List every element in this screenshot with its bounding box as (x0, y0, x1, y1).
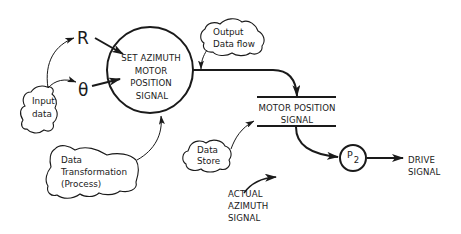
annotation-input-data: Input data (21, 38, 76, 133)
pointer-to-theta (48, 80, 76, 88)
annotation-output-data-flow: Output Data flow (201, 19, 264, 69)
pointer-to-output-flow (201, 50, 207, 69)
actual-signal-line-2: AZIMUTH (228, 201, 268, 211)
output-data-flow-line-1: Output (213, 27, 244, 37)
annotation-data-transformation: Data Transformation (Process) (46, 116, 161, 198)
process-p2: P2 (340, 145, 366, 171)
output-data-flow-line-2: Data flow (213, 39, 255, 49)
drive-signal-output: DRIVE SIGNAL (408, 155, 440, 177)
theta-flow-arrow (92, 79, 120, 86)
output-flow-line (193, 70, 297, 96)
process-label-line-3: POSITION (130, 78, 172, 88)
annotation-data-store: Data Store (183, 121, 254, 172)
data-transformation-line-3: (Process) (61, 179, 101, 189)
p2-label: P2 (347, 149, 359, 165)
process-label-line-2: MOTOR (135, 66, 168, 76)
pointer-to-data-store (231, 121, 254, 149)
pointer-to-process (137, 116, 161, 160)
store-label-line-2: SIGNAL (281, 115, 313, 125)
data-store-motor-position: MOTOR POSITION SIGNAL (257, 97, 336, 126)
data-flow-diagram: SET AZIMUTH MOTOR POSITION SIGNAL R θ In… (0, 0, 461, 234)
store-to-p2-flow (296, 127, 338, 157)
store-label-line-1: MOTOR POSITION (258, 103, 335, 113)
actual-signal-line-3: SIGNAL (228, 213, 260, 223)
drive-signal-line-2: SIGNAL (408, 167, 440, 177)
input-flows: R θ (77, 28, 123, 100)
process-label-line-1: SET AZIMUTH (121, 53, 181, 63)
drive-signal-line-1: DRIVE (408, 155, 435, 165)
data-store-line-1: Data (197, 145, 218, 155)
data-transformation-line-1: Data (61, 155, 82, 165)
input-data-line-1: Input (32, 96, 55, 106)
theta-label: θ (78, 80, 88, 100)
input-data-line-2: data (32, 109, 52, 119)
data-store-line-2: Store (197, 156, 220, 166)
r-label: R (77, 28, 89, 48)
actual-azimuth-signal: ACTUAL AZIMUTH SIGNAL (228, 177, 276, 223)
process-set-azimuth: SET AZIMUTH MOTOR POSITION SIGNAL (107, 27, 193, 113)
data-transformation-line-2: Transformation (60, 167, 127, 177)
process-label-line-4: SIGNAL (136, 91, 168, 101)
cloud-shape (201, 19, 264, 56)
